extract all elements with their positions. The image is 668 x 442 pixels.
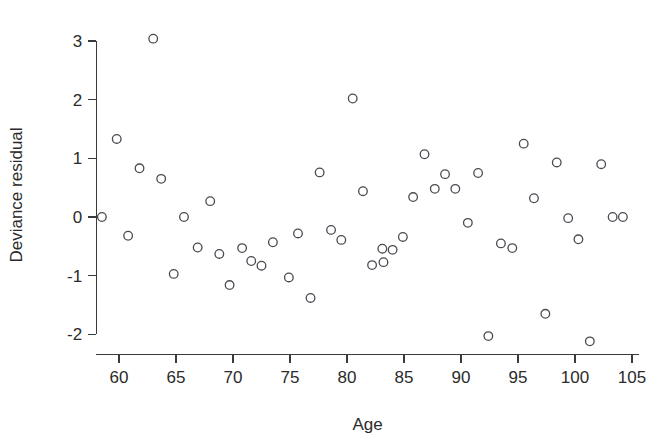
data-point xyxy=(337,236,346,245)
data-point xyxy=(484,332,493,341)
y-tick-label: -1 xyxy=(67,267,82,286)
data-point xyxy=(348,94,357,103)
data-point xyxy=(112,135,121,144)
data-point xyxy=(368,261,377,270)
data-point xyxy=(206,197,215,206)
data-point xyxy=(519,139,528,148)
x-tick-label: 80 xyxy=(338,368,357,387)
data-point xyxy=(315,168,324,177)
x-tick-label: 105 xyxy=(618,368,646,387)
data-point xyxy=(238,244,247,253)
data-point xyxy=(430,185,439,194)
x-tick-label: 100 xyxy=(561,368,589,387)
data-point xyxy=(98,213,107,222)
data-point xyxy=(399,233,408,242)
x-tick-label: 85 xyxy=(395,368,414,387)
data-point xyxy=(420,150,429,159)
data-point xyxy=(285,273,294,282)
y-axis-label: Deviance residual xyxy=(7,127,26,262)
x-tick-label: 65 xyxy=(167,368,186,387)
data-point xyxy=(247,257,256,266)
data-point xyxy=(564,214,573,223)
data-point xyxy=(530,194,539,203)
y-tick-label: -2 xyxy=(67,325,82,344)
data-point xyxy=(327,226,336,235)
data-point xyxy=(269,238,278,247)
data-point xyxy=(474,169,483,178)
x-tick-label: 75 xyxy=(281,368,300,387)
data-point xyxy=(541,310,550,319)
data-point xyxy=(225,281,234,290)
data-point xyxy=(124,231,133,240)
data-point xyxy=(586,337,595,346)
x-tick-label: 70 xyxy=(224,368,243,387)
plot-canvas: -2-10123 6065707580859095100105 Age Devi… xyxy=(0,0,668,442)
y-tick-label: 1 xyxy=(73,149,82,168)
data-point xyxy=(497,239,506,248)
data-point xyxy=(306,294,315,303)
data-point xyxy=(149,34,158,43)
data-point xyxy=(379,258,388,267)
data-point xyxy=(157,175,166,184)
data-point xyxy=(619,213,628,222)
x-tick-label: 90 xyxy=(452,368,471,387)
data-point xyxy=(180,213,189,222)
data-point xyxy=(169,270,178,279)
data-point xyxy=(135,164,144,173)
data-point xyxy=(388,246,397,255)
y-tick-label: 0 xyxy=(73,208,82,227)
x-tick-label: 95 xyxy=(509,368,528,387)
data-point xyxy=(552,158,561,167)
data-point xyxy=(574,235,583,244)
data-point xyxy=(608,213,617,222)
y-axis-ticks: -2-10123 xyxy=(67,32,96,344)
data-point xyxy=(409,193,418,202)
data-point xyxy=(464,219,473,228)
data-point xyxy=(359,187,368,196)
data-point xyxy=(193,243,202,252)
x-axis-ticks: 6065707580859095100105 xyxy=(110,355,647,387)
data-point xyxy=(441,170,450,179)
data-point xyxy=(508,244,517,253)
y-tick-label: 2 xyxy=(73,91,82,110)
axis-lines xyxy=(96,41,639,355)
data-point xyxy=(378,244,387,253)
x-tick-label: 60 xyxy=(110,368,129,387)
y-tick-label: 3 xyxy=(73,32,82,51)
data-point-group xyxy=(98,34,628,345)
data-point xyxy=(451,185,460,194)
data-point xyxy=(294,229,303,238)
data-point xyxy=(597,160,606,169)
x-axis-label: Age xyxy=(352,415,382,434)
scatter-plot-figure: -2-10123 6065707580859095100105 Age Devi… xyxy=(0,0,668,442)
data-point xyxy=(257,261,266,270)
data-point xyxy=(215,250,224,259)
